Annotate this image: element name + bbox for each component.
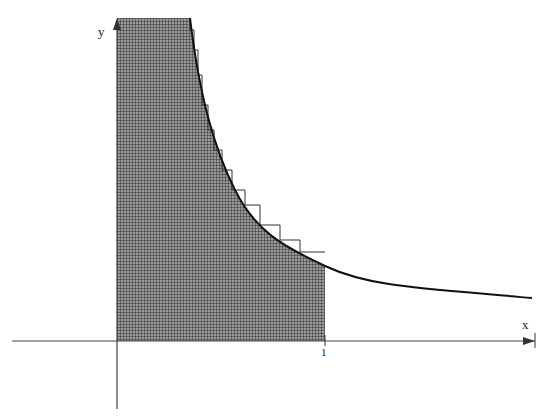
x-axis-label: x: [522, 317, 529, 333]
y-axis-label: y: [98, 24, 105, 40]
shaded-region: [117, 18, 325, 341]
tick-label-one: 1: [321, 346, 327, 358]
x-axis-arrow-icon: [523, 337, 535, 345]
graph: [0, 0, 560, 419]
